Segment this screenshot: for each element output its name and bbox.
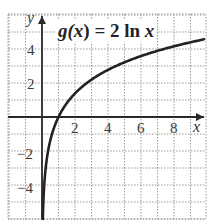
y-tick-label: −4 xyxy=(17,180,33,197)
x-tick-label: 2 xyxy=(71,120,79,137)
chart-title: g(x) = 2 ln x xyxy=(56,20,156,42)
y-tick-label: 2 xyxy=(27,76,35,93)
y-tick-label: −2 xyxy=(17,146,33,163)
x-tick-label: 4 xyxy=(104,120,112,137)
y-tick-label: 4 xyxy=(27,42,35,59)
x-tick-label: 8 xyxy=(170,120,178,137)
x-axis-label: x xyxy=(193,118,200,136)
y-axis-label: y xyxy=(27,9,34,27)
x-tick-label: 6 xyxy=(137,120,145,137)
